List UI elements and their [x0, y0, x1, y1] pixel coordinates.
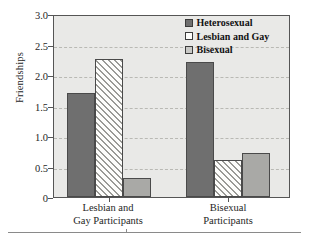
y-tick-label-0.5: 0.5 — [8, 162, 48, 173]
legend-item-heterosexual: Heterosexual — [185, 16, 269, 30]
y-tick-label-1.5: 1.5 — [8, 101, 48, 112]
x-category-label-lesbian-gay-participants: Lesbian and Gay Participants — [50, 202, 166, 227]
page-divider-tick — [126, 229, 127, 232]
page-divider-rule — [8, 232, 301, 233]
bar-group2-heterosexual — [186, 62, 214, 197]
gridline-2.0 — [54, 77, 289, 78]
y-tick-label-0: 0 — [8, 193, 48, 204]
y-tick-label-3.0: 3.0 — [8, 10, 48, 21]
chart-legend: Heterosexual Lesbian and Gay Bisexual — [185, 16, 269, 57]
bar-chart-figure: Friendships 3.0 2.5 2.0 1.5 1.0 0.5 0 Le… — [0, 0, 309, 241]
bar-group2-lesbian-and-gay — [214, 160, 242, 197]
legend-swatch-lesbian-and-gay-icon — [185, 32, 193, 40]
legend-swatch-heterosexual-icon — [185, 19, 193, 27]
legend-label-lesbian-and-gay: Lesbian and Gay — [197, 30, 270, 44]
bar-group2-bisexual — [242, 153, 270, 197]
y-tick-label-2.5: 2.5 — [8, 40, 48, 51]
y-tick-mark-0 — [48, 198, 53, 199]
legend-swatch-bisexual-icon — [185, 46, 193, 54]
bar-group1-lesbian-and-gay — [95, 59, 123, 198]
legend-item-lesbian-and-gay: Lesbian and Gay — [185, 30, 269, 44]
bar-group1-bisexual — [123, 178, 151, 198]
legend-item-bisexual: Bisexual — [185, 43, 269, 57]
x-category-label-bisexual-participants: Bisexual Participants — [170, 202, 286, 227]
legend-label-heterosexual: Heterosexual — [197, 16, 253, 30]
y-tick-label-2.0: 2.0 — [8, 71, 48, 82]
legend-label-bisexual: Bisexual — [197, 43, 233, 57]
y-tick-label-1.0: 1.0 — [8, 132, 48, 143]
bar-group1-heterosexual — [67, 93, 95, 197]
